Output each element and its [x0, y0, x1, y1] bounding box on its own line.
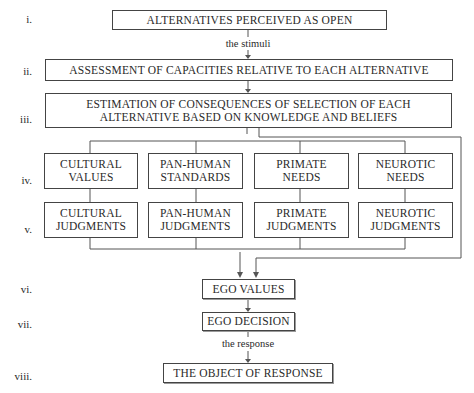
- box-text-line-1: ESTIMATION OF CONSEQUENCES OF SELECTION …: [86, 98, 410, 111]
- edge-label-stimuli: the stimuli: [208, 38, 288, 50]
- stage-label-iv: iv.: [21, 174, 32, 186]
- stage-label-vi: vi.: [21, 283, 32, 295]
- box-text-line-2: JUDGMENTS: [56, 220, 126, 233]
- box-text: ALTERNATIVES PERCEIVED AS OPEN: [147, 14, 353, 27]
- box-assessment-of-capacities: ASSESSMENT OF CAPACITIES RELATIVE TO EAC…: [45, 59, 453, 81]
- box-text-line-1: PAN-HUMAN: [160, 207, 231, 220]
- box-text: EGO VALUES: [212, 283, 284, 296]
- box-neurotic-needs: NEUROTIC NEEDS: [358, 153, 453, 189]
- box-text: EGO DECISION: [207, 315, 290, 328]
- box-text-line-2: STANDARDS: [161, 171, 231, 184]
- stage-label-viii: viii.: [15, 370, 32, 382]
- box-primate-judgments: PRIMATE JUDGMENTS: [254, 202, 349, 238]
- box-text-line-1: CULTURAL: [60, 158, 122, 171]
- stage-label-iii: iii.: [20, 113, 32, 125]
- box-text-line-1: PRIMATE: [276, 158, 327, 171]
- box-text-line-1: NEUROTIC: [376, 158, 436, 171]
- stage-label-i: i.: [26, 13, 32, 25]
- box-ego-decision: EGO DECISION: [202, 312, 295, 331]
- box-text-line-2: NEEDS: [282, 171, 320, 184]
- box-ego-values: EGO VALUES: [202, 279, 295, 299]
- box-object-of-response: THE OBJECT OF RESPONSE: [163, 363, 333, 383]
- stage-label-v: v.: [24, 223, 32, 235]
- box-text-line-2: NEEDS: [386, 171, 424, 184]
- box-text-line-2: JUDGMENTS: [370, 220, 440, 233]
- box-text-line-1: CULTURAL: [60, 207, 122, 220]
- stage-label-vii: vii.: [18, 318, 32, 330]
- box-text: ASSESSMENT OF CAPACITIES RELATIVE TO EAC…: [69, 64, 428, 77]
- edge-label-response: the response: [198, 338, 298, 350]
- box-pan-human-standards: PAN-HUMAN STANDARDS: [148, 153, 243, 189]
- box-cultural-judgments: CULTURAL JUDGMENTS: [44, 202, 138, 238]
- box-text-line-2: JUDGMENTS: [160, 220, 230, 233]
- box-pan-human-judgments: PAN-HUMAN JUDGMENTS: [148, 202, 243, 238]
- box-primate-needs: PRIMATE NEEDS: [254, 153, 349, 189]
- box-text-line-1: PAN-HUMAN: [160, 158, 231, 171]
- box-alternatives-perceived: ALTERNATIVES PERCEIVED AS OPEN: [112, 10, 387, 30]
- box-text-line-2: JUDGMENTS: [266, 220, 336, 233]
- stage-label-ii: ii.: [23, 65, 32, 77]
- box-neurotic-judgments: NEUROTIC JUDGMENTS: [358, 202, 453, 238]
- box-text-line-1: PRIMATE: [276, 207, 327, 220]
- box-text-line-2: ALTERNATIVE BASED ON KNOWLEDGE AND BELIE…: [100, 111, 398, 124]
- box-text-line-2: VALUES: [68, 171, 113, 184]
- box-text: THE OBJECT OF RESPONSE: [173, 367, 323, 380]
- box-estimation-of-consequences: ESTIMATION OF CONSEQUENCES OF SELECTION …: [45, 93, 452, 128]
- box-text-line-1: NEUROTIC: [376, 207, 436, 220]
- box-cultural-values: CULTURAL VALUES: [44, 153, 138, 189]
